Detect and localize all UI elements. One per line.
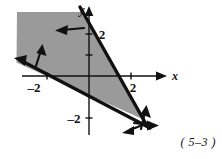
x-tick-label-negative-2: –2 [27,80,41,95]
figure-page: –2 2 2 –2 x y [0,0,222,159]
x-tick-label-positive-2: 2 [130,80,137,95]
x-axis-label: x [171,69,178,83]
figure-caption: ( 5–3 ) [181,135,217,150]
y-tick-label-negative-2: –2 [67,111,81,126]
